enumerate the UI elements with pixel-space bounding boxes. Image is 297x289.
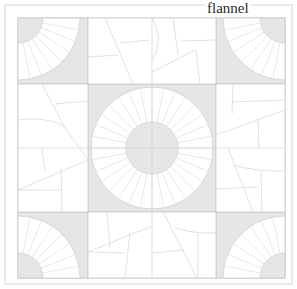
edge-block-left (18, 84, 88, 212)
edge-block-top (88, 18, 216, 84)
center-block (88, 84, 216, 212)
quilt-diagram (0, 0, 297, 289)
corner-block-top-left (18, 18, 88, 84)
edge-block-right (216, 84, 285, 212)
corner-block-bottom-right (216, 212, 285, 278)
fabric-label: flannel (205, 0, 251, 16)
corner-block-top-right (216, 18, 285, 84)
corner-block-bottom-left (18, 212, 88, 278)
edge-block-bottom (88, 212, 216, 278)
